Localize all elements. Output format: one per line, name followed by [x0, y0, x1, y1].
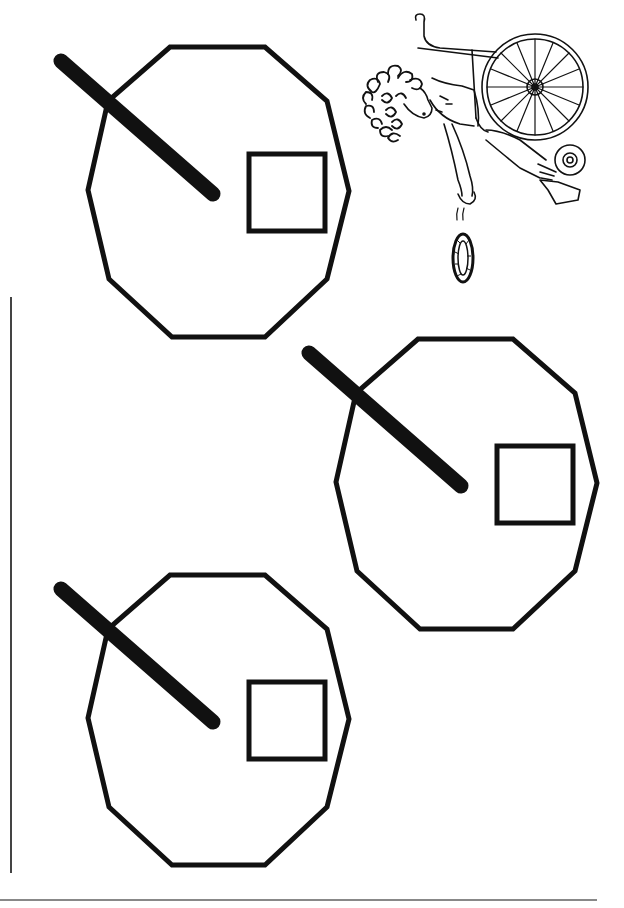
target-octagon-3 [61, 575, 349, 865]
target-octagon-1 [61, 47, 349, 337]
worksheet-canvas [0, 0, 624, 908]
wheelchair-girl-illustration [363, 14, 588, 220]
ring-toss-icon [453, 234, 473, 282]
target-octagon-2 [309, 339, 597, 629]
